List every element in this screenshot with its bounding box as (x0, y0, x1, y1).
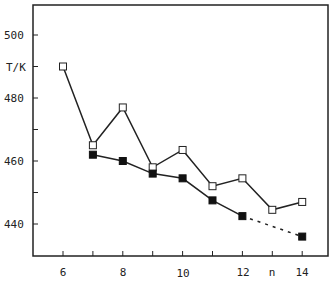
data-point-filled (179, 175, 186, 182)
data-point-open (119, 104, 126, 111)
y-tick-440: 440 (4, 218, 24, 231)
x-tick-8: 8 (120, 266, 127, 279)
plot-frame (33, 5, 328, 256)
x-tick-6: 6 (60, 266, 67, 279)
chart: 500 T/K 480 460 440 6 8 10 12 n 14 (0, 0, 336, 286)
series-open-squares (60, 63, 306, 213)
x-tick-10: 10 (176, 267, 189, 280)
data-point-open (239, 175, 246, 182)
data-point-open (60, 63, 67, 70)
x-tick-12: 12 (236, 266, 249, 279)
data-point-open (209, 183, 216, 190)
y-tick-460: 460 (4, 155, 24, 168)
data-point-open (299, 198, 306, 205)
series-filled-squares (89, 151, 305, 240)
data-point-filled (299, 233, 306, 240)
data-point-filled (89, 151, 96, 158)
x-axis-label: n (269, 266, 276, 279)
data-point-filled (239, 213, 246, 220)
data-point-open (179, 146, 186, 153)
data-point-filled (209, 197, 216, 204)
data-point-filled (119, 158, 126, 165)
x-tick-14: 14 (295, 266, 309, 279)
data-point-open (269, 206, 276, 213)
y-tick-500: 500 (4, 29, 24, 42)
y-axis-label: T/K (6, 61, 26, 74)
data-point-open (89, 142, 96, 149)
y-tick-480: 480 (4, 92, 24, 105)
data-point-filled (149, 170, 156, 177)
